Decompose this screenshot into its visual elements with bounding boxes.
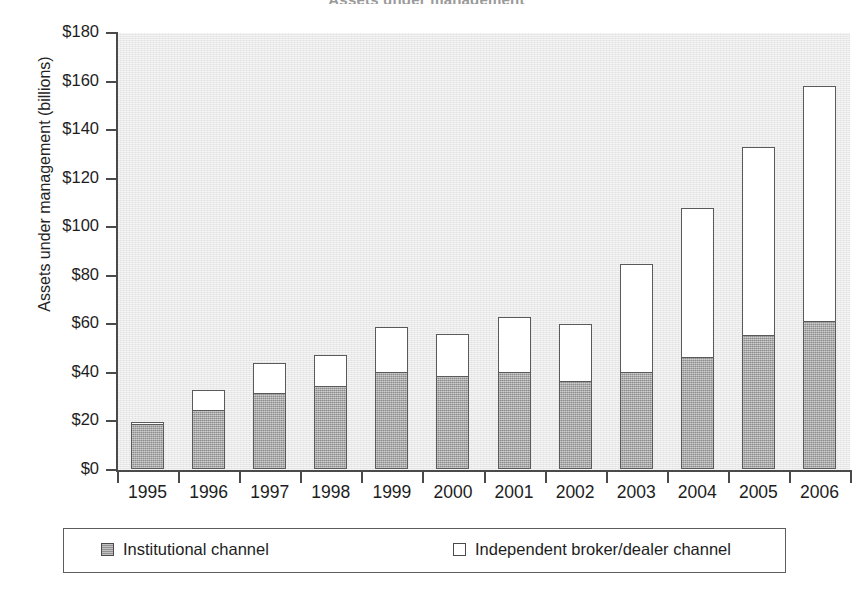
bar-2003[interactable] bbox=[620, 264, 653, 470]
plot-area bbox=[117, 33, 850, 470]
bar-segment-broker-dealer bbox=[253, 363, 286, 395]
y-tick-label: $120 bbox=[62, 168, 99, 187]
bar-segment-institutional bbox=[436, 376, 469, 468]
bar-2005[interactable] bbox=[742, 147, 775, 470]
legend-label-broker-dealer: Independent broker/dealer channel bbox=[475, 540, 731, 559]
x-label-2004: 2004 bbox=[662, 482, 732, 503]
bar-segment-broker-dealer bbox=[620, 264, 653, 373]
bar-segment-broker-dealer bbox=[681, 208, 714, 359]
bar-segment-broker-dealer bbox=[803, 86, 836, 321]
legend-swatch-institutional-icon bbox=[101, 543, 114, 556]
bar-segment-broker-dealer bbox=[192, 390, 225, 412]
x-label-2001: 2001 bbox=[479, 482, 549, 503]
bar-1999[interactable] bbox=[375, 327, 408, 470]
y-tick-mark bbox=[106, 323, 117, 325]
bar-segment-institutional bbox=[314, 386, 347, 469]
bar-segment-institutional bbox=[192, 410, 225, 468]
y-tick-label: $160 bbox=[62, 71, 99, 90]
chart-title: Assets under management bbox=[0, 0, 853, 4]
bar-2004[interactable] bbox=[681, 208, 714, 470]
legend-label-institutional: Institutional channel bbox=[123, 540, 269, 559]
y-tick-label: $180 bbox=[62, 22, 99, 41]
bar-segment-broker-dealer bbox=[559, 324, 592, 382]
x-label-2006: 2006 bbox=[784, 482, 853, 503]
x-label-2003: 2003 bbox=[601, 482, 671, 503]
bar-segment-broker-dealer bbox=[498, 317, 531, 373]
y-tick-label: $0 bbox=[81, 459, 99, 478]
bar-1997[interactable] bbox=[253, 363, 286, 470]
legend-entry-broker-dealer[interactable]: Independent broker/dealer channel bbox=[453, 540, 731, 559]
bar-2001[interactable] bbox=[498, 317, 531, 470]
bar-2000[interactable] bbox=[436, 334, 469, 470]
legend-entry-institutional[interactable]: Institutional channel bbox=[101, 540, 269, 559]
x-label-2000: 2000 bbox=[418, 482, 488, 503]
x-label-1996: 1996 bbox=[174, 482, 244, 503]
bar-segment-institutional bbox=[681, 357, 714, 469]
y-tick-mark bbox=[106, 372, 117, 374]
legend-swatch-broker-dealer-icon bbox=[453, 543, 466, 556]
bar-segment-institutional bbox=[253, 393, 286, 468]
bar-segment-institutional bbox=[803, 321, 836, 469]
y-tick-label: $60 bbox=[71, 313, 99, 332]
plot-texture bbox=[117, 33, 850, 470]
x-label-1999: 1999 bbox=[357, 482, 427, 503]
y-tick-mark bbox=[106, 420, 117, 422]
bar-segment-institutional bbox=[498, 372, 531, 469]
bar-segment-broker-dealer bbox=[375, 327, 408, 373]
bar-segment-institutional bbox=[131, 424, 164, 469]
bar-segment-institutional bbox=[742, 335, 775, 469]
y-tick-mark bbox=[106, 178, 117, 180]
y-tick-mark bbox=[106, 129, 117, 131]
x-label-1998: 1998 bbox=[296, 482, 366, 503]
y-tick-mark bbox=[106, 81, 117, 83]
x-label-1997: 1997 bbox=[235, 482, 305, 503]
bar-2002[interactable] bbox=[559, 324, 592, 470]
y-axis-line bbox=[116, 32, 118, 472]
y-tick-label: $140 bbox=[62, 119, 99, 138]
y-tick-label: $80 bbox=[71, 265, 99, 284]
x-label-2005: 2005 bbox=[723, 482, 793, 503]
legend: Institutional channel Independent broker… bbox=[63, 528, 786, 573]
y-tick-mark bbox=[106, 469, 117, 471]
bar-segment-institutional bbox=[375, 372, 408, 469]
x-label-1995: 1995 bbox=[113, 482, 183, 503]
y-tick-label: $100 bbox=[62, 216, 99, 235]
bar-segment-broker-dealer bbox=[314, 355, 347, 388]
y-tick-mark bbox=[106, 275, 117, 277]
y-tick-mark bbox=[106, 32, 117, 34]
bar-1996[interactable] bbox=[192, 390, 225, 470]
y-tick-mark bbox=[106, 226, 117, 228]
y-tick-label: $40 bbox=[71, 362, 99, 381]
x-label-2002: 2002 bbox=[540, 482, 610, 503]
bar-segment-broker-dealer bbox=[742, 147, 775, 336]
bar-2006[interactable] bbox=[803, 86, 836, 470]
bar-segment-broker-dealer bbox=[436, 334, 469, 378]
bar-1998[interactable] bbox=[314, 355, 347, 470]
bar-1995[interactable] bbox=[131, 422, 164, 470]
bar-segment-institutional bbox=[559, 381, 592, 468]
bar-segment-institutional bbox=[620, 372, 653, 469]
y-axis-title: Assets under management (billions) bbox=[36, 4, 54, 364]
y-tick-label: $20 bbox=[71, 410, 99, 429]
